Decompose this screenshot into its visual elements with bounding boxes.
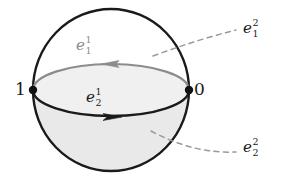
cell-label-e22: e22: [243, 139, 264, 155]
cell-label-e11: e11: [76, 37, 97, 53]
leader-line-e12: [153, 30, 236, 56]
cell-label-e22-subscript: 2: [252, 147, 258, 158]
cell-label-e21-base: e: [86, 88, 95, 106]
vertex-dot-zero: [185, 86, 193, 94]
vertex-label-zero: 0: [194, 81, 205, 98]
cell-label-e22-superscript: 2: [252, 136, 258, 147]
cell-label-e12: e21: [243, 20, 264, 36]
cell-label-e11-superscript: 1: [85, 34, 91, 45]
cell-label-e12-superscript: 2: [252, 17, 258, 28]
cell-label-e12-base: e: [243, 19, 252, 37]
cell-label-e11-subscript: 1: [85, 45, 91, 56]
vertex-label-one: 1: [15, 81, 26, 98]
vertex-dot-one: [29, 86, 37, 94]
cell-label-e21-subscript: 2: [95, 97, 101, 108]
cell-label-e21: e12: [86, 89, 107, 105]
cell-label-e12-subscript: 1: [252, 28, 258, 39]
sphere-cw-complex-diagram: 1 0 e11 e12 e21 e22: [0, 0, 286, 180]
cell-label-e21-superscript: 1: [95, 86, 101, 97]
cell-label-e22-base: e: [243, 138, 252, 156]
cell-label-e11-base: e: [76, 36, 85, 54]
